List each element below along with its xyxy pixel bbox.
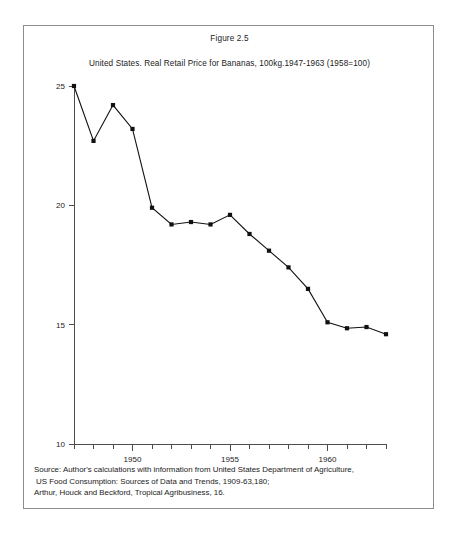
chart-axes (74, 86, 386, 444)
data-point-marker (364, 325, 368, 329)
data-series-group (74, 86, 386, 334)
data-point-marker (130, 127, 134, 131)
line-chart-plot: 10152025 195019551960 (24, 26, 435, 510)
data-point-marker (72, 84, 76, 88)
data-point-marker (169, 222, 173, 226)
y-axis-tick-label: 10 (56, 440, 65, 449)
data-point-marker (189, 220, 193, 224)
data-point-marker (247, 232, 251, 236)
figure-frame: Figure 2.5 United States. Real Retail Pr… (23, 25, 434, 509)
source-note-line-3: Arthur, Houck and Beckford, Tropical Agr… (34, 487, 430, 499)
data-point-marker (384, 332, 388, 336)
data-markers-group (72, 84, 388, 336)
source-note-line-1: Source: Author's calculations with infor… (34, 464, 430, 476)
figure-root: Figure 2.5 United States. Real Retail Pr… (0, 0, 456, 542)
x-axis-tick-label: 1960 (319, 455, 337, 464)
data-point-marker (228, 213, 232, 217)
y-axis-ticks: 10152025 (56, 82, 74, 449)
data-point-marker (345, 326, 349, 330)
data-point-marker (306, 287, 310, 291)
data-point-marker (111, 103, 115, 107)
data-point-marker (286, 265, 290, 269)
data-point-marker (267, 249, 271, 253)
data-point-marker (208, 222, 212, 226)
y-axis-tick-label: 15 (56, 321, 65, 330)
x-axis-tick-label: 1955 (221, 455, 239, 464)
data-point-marker (325, 320, 329, 324)
data-point-marker (91, 139, 95, 143)
y-axis-tick-label: 20 (56, 201, 65, 210)
data-point-marker (150, 206, 154, 210)
price-series-line (74, 86, 386, 334)
y-axis-tick-label: 25 (56, 82, 65, 91)
x-axis-tick-label: 1950 (124, 455, 142, 464)
source-note-line-2: US Food Consumption: Sources of Data and… (34, 476, 430, 488)
x-axis-ticks: 195019551960 (74, 444, 386, 464)
source-note: Source: Author's calculations with infor… (34, 464, 430, 499)
